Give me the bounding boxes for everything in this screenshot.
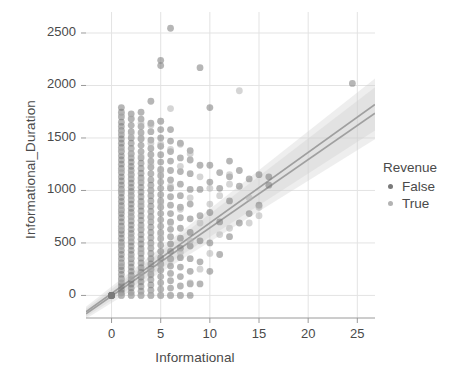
data-point [138, 120, 145, 127]
data-point [187, 170, 194, 177]
data-point [128, 213, 135, 220]
data-point [157, 273, 164, 280]
data-point [157, 210, 164, 217]
data-point [157, 57, 164, 64]
data-point [236, 87, 243, 94]
data-point [157, 292, 164, 299]
data-point [206, 104, 213, 111]
data-point [128, 234, 135, 241]
data-point [157, 248, 164, 255]
data-point [157, 231, 164, 238]
data-point [246, 220, 253, 227]
data-point [167, 177, 174, 184]
data-point [118, 261, 125, 268]
data-point [157, 135, 164, 142]
data-point [216, 219, 223, 226]
data-point [167, 233, 174, 240]
data-point [177, 155, 184, 162]
data-point [197, 266, 204, 273]
data-point [167, 226, 174, 233]
data-point [128, 122, 135, 129]
data-point [138, 135, 145, 142]
data-point [226, 225, 233, 232]
data-point [167, 167, 174, 174]
data-point [197, 237, 204, 244]
data-point [206, 268, 213, 275]
data-point [177, 235, 184, 242]
data-point [147, 187, 154, 194]
data-point [246, 176, 253, 183]
x-tick-label: 20 [288, 326, 328, 341]
data-point [349, 80, 356, 87]
data-point [138, 271, 145, 278]
data-point [206, 240, 213, 247]
data-point [177, 249, 184, 256]
data-point [226, 158, 233, 165]
data-point [157, 200, 164, 207]
data-point [167, 146, 174, 153]
data-point [187, 292, 194, 299]
data-point [128, 254, 135, 261]
data-point [226, 233, 233, 240]
data-point [157, 254, 164, 261]
data-point [147, 214, 154, 221]
data-point [138, 142, 145, 149]
data-point [138, 177, 145, 184]
data-point [187, 215, 194, 222]
data-point [167, 183, 174, 190]
data-point [216, 251, 223, 258]
data-point [147, 177, 154, 184]
data-point [157, 141, 164, 148]
data-point [177, 273, 184, 280]
data-point [256, 212, 263, 219]
data-point [157, 185, 164, 192]
data-point [177, 163, 184, 170]
y-tick-label: 2500 [18, 24, 76, 39]
data-point [138, 225, 145, 232]
data-point [167, 210, 174, 217]
data-point [167, 277, 174, 284]
data-point [226, 198, 233, 205]
data-point [197, 173, 204, 180]
legend-item-true[interactable]: True [383, 195, 458, 212]
data-point [167, 105, 174, 112]
data-point [226, 171, 233, 178]
data-point [197, 186, 204, 193]
data-point [256, 204, 263, 211]
data-point [167, 241, 174, 248]
data-point [265, 173, 272, 180]
data-point [118, 225, 125, 232]
data-point [157, 126, 164, 133]
y-tick-label: 1500 [18, 129, 76, 144]
data-point [167, 220, 174, 227]
data-point [167, 292, 174, 299]
y-tick-label: 0 [18, 286, 76, 301]
data-point [128, 274, 135, 281]
data-point [226, 181, 233, 188]
data-point [138, 109, 145, 116]
data-point [118, 147, 125, 154]
data-point [118, 277, 125, 284]
legend-label: True [402, 196, 429, 211]
data-point [118, 206, 125, 213]
data-point [167, 126, 174, 133]
legend-swatch-icon [383, 179, 398, 194]
data-point [108, 292, 115, 299]
data-point [177, 192, 184, 199]
data-point [157, 179, 164, 186]
data-point [236, 220, 243, 227]
x-tick-label: 15 [239, 326, 279, 341]
data-point [118, 167, 125, 174]
data-point [147, 170, 154, 177]
data-point [246, 194, 253, 201]
data-point [138, 248, 145, 255]
data-point [206, 250, 213, 257]
data-point [187, 194, 194, 201]
data-point [128, 292, 135, 299]
x-axis-title: Informational [0, 350, 390, 365]
legend-item-false[interactable]: False [383, 178, 458, 195]
data-point [256, 171, 263, 178]
data-point [187, 157, 194, 164]
x-tick-label: 0 [92, 326, 132, 341]
x-tick-label: 5 [141, 326, 181, 341]
